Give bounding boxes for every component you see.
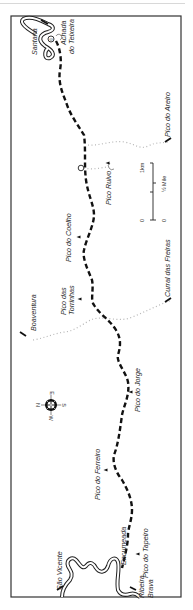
label-sao-vicente: São Vicente [55,551,64,590]
label-pico-ruivo: Pico Ruivo [104,171,113,205]
label-pico-do-coelho: Pico do Coelho [64,213,73,262]
label-torrinhas: Torrinhas [67,285,76,315]
label-pico-do-tapeiro: Pico do Tapeiro [141,528,150,578]
compass-w: W [48,415,54,421]
label-pico-do-areiro: Pico do Areiro [163,92,172,137]
label-ribeira: Ribeira [137,575,146,598]
compass-s: S [61,403,67,407]
scale-km-label: 1km [139,162,145,173]
label-brava: Brava [146,579,155,598]
scale-mile-zero: 0 [161,219,167,222]
compass-n: N [35,403,41,407]
route-map: ʘ E W N S [0,0,193,610]
scale-mile-label: ½ Mile [161,176,167,192]
label-curral-das-freiras: Curral das Freiras [163,239,172,297]
label-pico-do-ferreiro: Pico do Ferreiro [93,449,102,500]
scale-km-zero: 0 [139,219,145,222]
refuge-icon: ʘ [48,36,54,42]
label-santana: Santana [30,28,39,55]
label-do-teixeira: do Teixeira [67,19,76,54]
svg-text:ʘ: ʘ [49,37,52,42]
label-encumeada: Encumeada [119,527,128,565]
label-boaventura: Boaventura [29,294,38,331]
label-pico-do-jorge: Pico do Jorge [133,368,142,412]
compass-e: E [49,391,55,395]
refuge-ruivo-icon [78,165,84,171]
